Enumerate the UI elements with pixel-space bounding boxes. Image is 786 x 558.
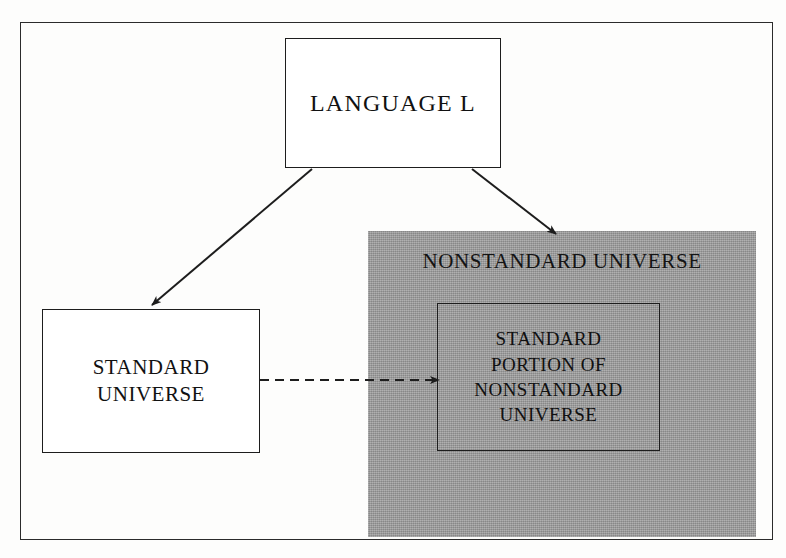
standard-portion-node-label: STANDARD PORTION OF NONSTANDARD UNIVERSE [474,326,623,427]
standard-universe-node-label: STANDARD UNIVERSE [93,354,210,408]
language-node-label: LANGUAGE L [310,90,476,117]
language-node[interactable]: LANGUAGE L [285,38,501,168]
standard-universe-node[interactable]: STANDARD UNIVERSE [42,309,260,453]
standard-portion-node[interactable]: STANDARD PORTION OF NONSTANDARD UNIVERSE [437,303,660,451]
nonstandard-universe-label: NONSTANDARD UNIVERSE [368,249,756,274]
figure-canvas: NONSTANDARD UNIVERSE LANGUAGE L STANDARD… [0,0,786,558]
